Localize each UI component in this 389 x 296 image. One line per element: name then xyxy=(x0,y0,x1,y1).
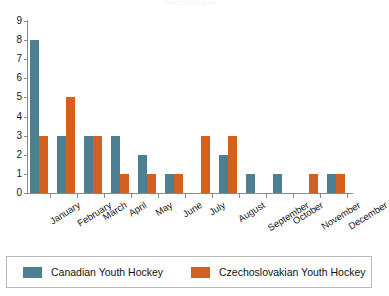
bar xyxy=(138,155,147,193)
bar xyxy=(66,97,75,193)
bar xyxy=(84,136,93,193)
bar xyxy=(39,136,48,193)
bar xyxy=(93,136,102,193)
x-axis-labels: JanuaryFebruaryMarchAprilMayJuneJulyAugu… xyxy=(0,194,380,250)
y-axis-tick xyxy=(24,97,28,98)
y-axis-tick xyxy=(24,155,28,156)
bar xyxy=(336,174,345,193)
y-axis-tick xyxy=(24,78,28,79)
chart-legend: Canadian Youth Hockey Czechoslovakian Yo… xyxy=(6,256,372,288)
bar xyxy=(246,174,255,193)
y-axis-tick xyxy=(24,117,28,118)
bar xyxy=(174,174,183,193)
bar xyxy=(165,174,174,193)
x-axis-tick xyxy=(77,194,78,198)
x-axis-tick xyxy=(131,194,132,198)
x-axis-label: May xyxy=(154,200,175,218)
legend-swatch-icon xyxy=(23,267,42,278)
x-axis-tick xyxy=(185,194,186,198)
x-axis-tick xyxy=(104,194,105,198)
x-axis-tick xyxy=(347,194,348,198)
bar xyxy=(147,174,156,193)
y-axis-tick-label: 2 xyxy=(7,150,22,160)
x-axis-label: June xyxy=(181,200,204,219)
legend-label: Czechoslovakian Youth Hockey xyxy=(219,266,366,278)
x-axis-tick xyxy=(212,194,213,198)
y-axis-tick-label: 8 xyxy=(7,35,22,45)
x-axis-label: July xyxy=(208,200,228,217)
x-axis-tick xyxy=(320,194,321,198)
y-axis-tick-label: 9 xyxy=(7,16,22,26)
y-axis-tick xyxy=(24,40,28,41)
legend-item-czechoslovakian: Czechoslovakian Youth Hockey xyxy=(191,266,366,278)
y-axis-tick xyxy=(24,174,28,175)
x-axis-tick xyxy=(293,194,294,198)
y-axis-tick-label: 5 xyxy=(7,92,22,102)
bar xyxy=(30,40,39,193)
x-axis-tick xyxy=(158,194,159,198)
y-axis-tick-label: 7 xyxy=(7,54,22,64)
bar xyxy=(309,174,318,193)
bar xyxy=(219,155,228,193)
y-axis-tick xyxy=(24,59,28,60)
y-axis-tick-label: 3 xyxy=(7,131,22,141)
plot-area: 0123456789 xyxy=(28,21,352,193)
y-axis-tick-label: 4 xyxy=(7,112,22,122)
x-axis-label: April xyxy=(127,200,148,219)
bar xyxy=(201,136,210,193)
bar xyxy=(120,174,129,193)
bar xyxy=(57,136,66,193)
legend-item-canadian: Canadian Youth Hockey xyxy=(23,266,163,278)
y-axis-tick-label: 1 xyxy=(7,169,22,179)
y-axis-tick-label: 6 xyxy=(7,73,22,83)
x-axis-tick xyxy=(50,194,51,198)
bar xyxy=(111,136,120,193)
y-axis-tick xyxy=(24,136,28,137)
y-axis-tick xyxy=(24,21,28,22)
x-axis-tick xyxy=(239,194,240,198)
legend-swatch-icon xyxy=(191,267,210,278)
bar xyxy=(327,174,336,193)
legend-label: Canadian Youth Hockey xyxy=(51,266,163,278)
x-axis-label: August xyxy=(236,200,266,224)
bar xyxy=(228,136,237,193)
chart-title: Youth Hockey xyxy=(0,0,380,7)
bar xyxy=(273,174,282,193)
x-axis-tick xyxy=(266,194,267,198)
